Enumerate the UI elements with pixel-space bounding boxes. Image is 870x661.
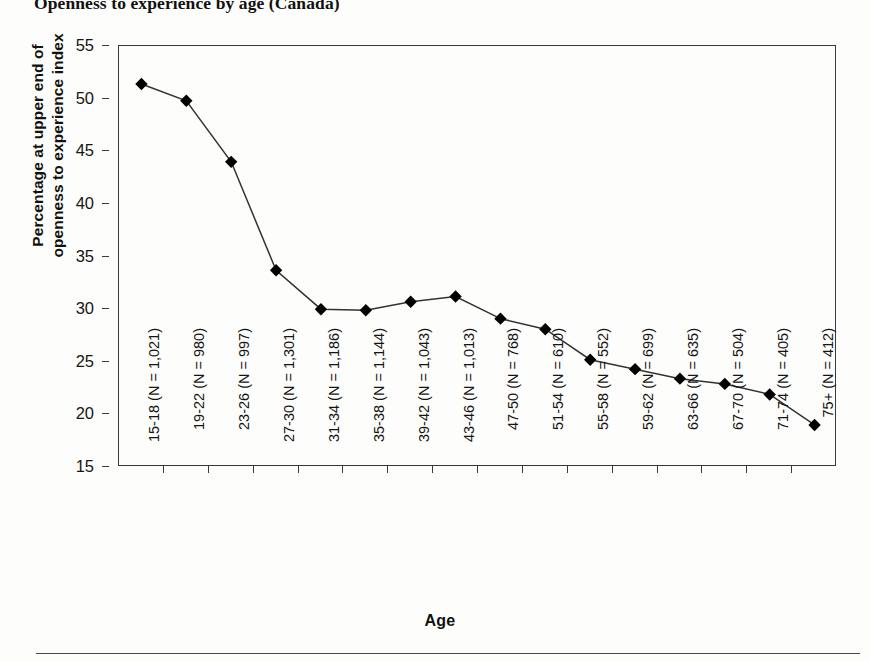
y-axis-title-line-1: Percentage at upper end of	[28, 0, 48, 345]
x-tick-mark	[746, 466, 747, 473]
y-axis: Percentage at upper end of openness to e…	[0, 0, 118, 511]
x-tick-mark	[791, 466, 792, 473]
y-tick-mark	[102, 45, 109, 46]
y-tick-mark	[102, 256, 109, 257]
y-tick-mark	[102, 413, 109, 414]
y-tick-label: 35	[48, 247, 94, 264]
y-tick-label: 15	[48, 458, 94, 475]
x-axis-title: Age	[340, 612, 540, 630]
x-tick-label: 67-70 (N = 504)	[731, 328, 746, 478]
y-tick-label: 45	[48, 142, 94, 159]
x-tick-label: 23-26 (N = 997)	[237, 328, 252, 478]
y-tick-label: 25	[48, 353, 94, 370]
x-tick-mark	[208, 466, 209, 473]
x-tick-mark	[387, 466, 388, 473]
y-tick-mark	[102, 150, 109, 151]
x-tick-label: 35-38 (N = 1,144)	[372, 328, 387, 478]
y-tick-label: 40	[48, 195, 94, 212]
x-tick-label: 27-30 (N = 1,301)	[282, 328, 297, 478]
footer-divider	[36, 653, 860, 654]
x-tick-mark	[701, 466, 702, 473]
x-tick-mark	[342, 466, 343, 473]
y-tick-mark	[102, 98, 109, 99]
x-tick-mark	[432, 466, 433, 473]
chart-figure: Openness to experience by age (Canada) P…	[0, 0, 870, 661]
y-tick-label: 30	[48, 300, 94, 317]
x-tick-label: 31-34 (N = 1,186)	[327, 328, 342, 478]
y-tick-mark	[102, 308, 109, 309]
y-tick-label: 55	[48, 37, 94, 54]
plot-area	[118, 45, 836, 466]
x-tick-mark	[567, 466, 568, 473]
x-tick-label: 55-58 (N = 552)	[596, 328, 611, 478]
x-tick-label: 47-50 (N = 768)	[506, 328, 521, 478]
x-tick-label: 43-46 (N = 1,013)	[462, 328, 477, 478]
x-tick-label: 15-18 (N = 1,021)	[147, 328, 162, 478]
x-tick-label: 63-66 (N = 635)	[686, 328, 701, 478]
x-tick-mark	[522, 466, 523, 473]
y-tick-mark	[102, 203, 109, 204]
x-tick-label: 71-74 (N = 405)	[776, 328, 791, 478]
x-tick-mark	[657, 466, 658, 473]
x-tick-mark	[163, 466, 164, 473]
y-tick-mark	[102, 466, 109, 467]
x-tick-label: 19-22 (N = 980)	[192, 328, 207, 478]
x-tick-label: 51-54 (N = 610)	[551, 328, 566, 478]
x-tick-label: 75+ (N = 412)	[821, 328, 836, 478]
chart-title: Openness to experience by age (Canada)	[34, 0, 734, 15]
y-tick-label: 20	[48, 405, 94, 422]
x-tick-label: 39-42 (N = 1,043)	[417, 328, 432, 478]
x-tick-label: 59-62 (N = 699)	[641, 328, 656, 478]
y-tick-label: 50	[48, 89, 94, 106]
y-tick-mark	[102, 361, 109, 362]
x-tick-mark	[612, 466, 613, 473]
x-tick-mark	[253, 466, 254, 473]
x-tick-mark	[477, 466, 478, 473]
x-tick-mark	[298, 466, 299, 473]
